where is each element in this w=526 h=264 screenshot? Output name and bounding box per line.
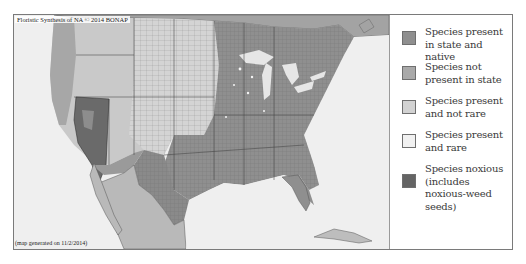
legend-label: Species noxious (includes noxious-weed s… (425, 163, 513, 213)
legend-swatch-noxious (402, 174, 416, 188)
map-generated-date: (map generated on 11/2/2014) (15, 240, 87, 247)
legend-swatch-rare (402, 134, 416, 148)
distribution-map: Floristic Synthesis of NA © 2014 BONAP (… (14, 15, 390, 249)
map-graphic (14, 15, 389, 249)
legend-swatch-native (402, 31, 416, 45)
legend-label: Species present and rare (425, 129, 513, 154)
map-legend: Species present in state and native Spec… (390, 15, 512, 249)
map-credit: Floristic Synthesis of NA © 2014 BONAP (15, 16, 130, 23)
legend-label: Species present in state and native (425, 26, 513, 64)
legend-label: Species not present in state (425, 61, 513, 86)
legend-label: Species present and not rare (425, 95, 513, 120)
map-figure: Floristic Synthesis of NA © 2014 BONAP (… (13, 14, 513, 250)
legend-swatch-not-rare (402, 100, 416, 114)
legend-swatch-not-present (402, 66, 416, 80)
